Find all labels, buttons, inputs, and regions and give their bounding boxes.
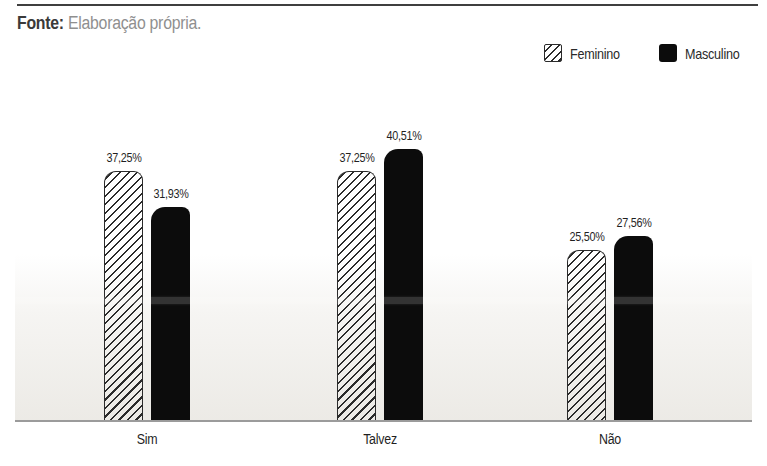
top-rule-divider [17, 4, 758, 6]
solid-square-icon [659, 44, 677, 62]
bar-masculino-nao [614, 236, 653, 420]
value-label-masculino-talvez: 40,51% [386, 128, 421, 143]
bar-masculino-sim [151, 207, 190, 420]
bar-masculino-talvez [384, 149, 423, 420]
category-label-sim: Sim [137, 430, 158, 448]
page: Fonte: Elaboração própria. Feminino Masc… [0, 0, 767, 466]
value-label-masculino-nao: 27,56% [616, 215, 651, 230]
bar-feminino-nao [567, 250, 606, 421]
source-note: Fonte: Elaboração própria. [17, 13, 201, 34]
legend-item-feminino: Feminino [544, 44, 629, 62]
value-label-feminino-nao: 25,50% [569, 229, 604, 244]
category-label-talvez: Talvez [363, 430, 397, 448]
value-label-feminino-talvez: 37,25% [339, 150, 374, 165]
chart-legend: Feminino Masculino [544, 44, 750, 62]
source-note-text: Elaboração própria. [68, 13, 201, 33]
value-label-masculino-sim: 31,93% [153, 186, 188, 201]
value-label-feminino-sim: 37,25% [106, 150, 141, 165]
legend-label-feminino: Feminino [570, 45, 620, 62]
legend-item-masculino: Masculino [659, 44, 750, 62]
hatched-square-icon [544, 44, 562, 62]
category-label-nao: Não [599, 430, 621, 448]
bar-feminino-talvez [337, 171, 376, 420]
legend-label-masculino: Masculino [685, 45, 739, 62]
bar-feminino-sim [104, 171, 143, 420]
source-note-label: Fonte: [17, 13, 64, 33]
plot-area: 37,25%31,93%37,25%40,51%25,50%27,56% [15, 88, 752, 422]
